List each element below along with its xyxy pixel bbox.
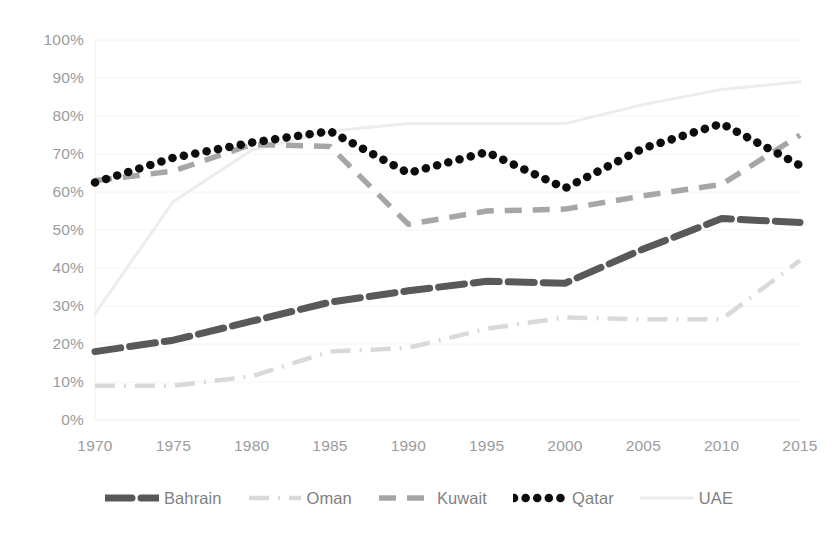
- y-axis-tick-label: 40%: [22, 260, 84, 276]
- plot-area: 0%10%20%30%40%50%60%70%80%90%100%: [0, 0, 838, 470]
- legend-item-bahrain[interactable]: Bahrain: [105, 490, 222, 507]
- legend-label: Kuwait: [437, 490, 487, 507]
- y-axis-tick-label: 90%: [22, 70, 84, 86]
- line-chart-svg: [0, 0, 838, 470]
- legend-label: Bahrain: [164, 490, 222, 507]
- series-line-uae: [95, 82, 800, 314]
- legend-item-oman[interactable]: Oman: [248, 490, 352, 507]
- y-axis-tick-label: 80%: [22, 108, 84, 124]
- series-line-qatar: [95, 124, 800, 189]
- dash-dot-line-swatch: [248, 491, 302, 505]
- series-bahrain: [95, 219, 800, 352]
- x-axis-tick-label: 1995: [469, 437, 504, 455]
- legend-item-uae[interactable]: UAE: [640, 490, 733, 507]
- x-axis-tick-label: 2000: [547, 437, 582, 455]
- legend-label: Oman: [307, 490, 352, 507]
- dotted-line-swatch: [513, 491, 567, 505]
- x-axis-tick-labels: 1970197519801985199019952000200520102015: [0, 437, 838, 465]
- x-axis-tick-label: 1980: [234, 437, 269, 455]
- legend-label: Qatar: [572, 490, 614, 507]
- legend-dot-marker: [150, 495, 155, 500]
- y-axis-tick-label: 50%: [22, 222, 84, 238]
- x-axis-tick-label: 2010: [704, 437, 739, 455]
- legend-item-qatar[interactable]: Qatar: [513, 490, 614, 507]
- x-axis-tick-label: 1990: [391, 437, 426, 455]
- series-oman: [95, 260, 800, 385]
- chart-container: 0%10%20%30%40%50%60%70%80%90%100% 197019…: [0, 0, 838, 536]
- x-axis-tick-label: 1975: [156, 437, 191, 455]
- faint-line-swatch: [640, 491, 694, 505]
- y-axis-tick-label: 30%: [22, 298, 84, 314]
- y-axis-tick-label: 10%: [22, 374, 84, 390]
- legend-item-kuwait[interactable]: Kuwait: [378, 490, 487, 507]
- y-axis-tick-label: 100%: [22, 32, 84, 48]
- series-line-kuwait: [95, 135, 800, 224]
- series-qatar: [95, 124, 800, 189]
- series-line-oman: [95, 260, 800, 385]
- y-axis-tick-label: 70%: [22, 146, 84, 162]
- y-axis-tick-labels: 0%10%20%30%40%50%60%70%80%90%100%: [22, 0, 84, 470]
- dashed-line-swatch: [378, 491, 432, 505]
- x-axis-tick-label: 2015: [782, 437, 817, 455]
- x-axis-tick-label: 1970: [77, 437, 112, 455]
- chart-legend: BahrainOmanKuwaitQatarUAE: [0, 478, 838, 518]
- series-uae: [95, 82, 800, 314]
- y-axis-tick-label: 0%: [22, 412, 84, 428]
- legend-label: UAE: [699, 490, 733, 507]
- y-axis-tick-label: 20%: [22, 336, 84, 352]
- series-kuwait: [95, 135, 800, 224]
- x-axis-tick-label: 2005: [626, 437, 661, 455]
- y-axis-tick-label: 60%: [22, 184, 84, 200]
- series-line-bahrain: [95, 219, 800, 352]
- dashed-line-swatch: [105, 491, 159, 505]
- x-axis-tick-label: 1985: [312, 437, 347, 455]
